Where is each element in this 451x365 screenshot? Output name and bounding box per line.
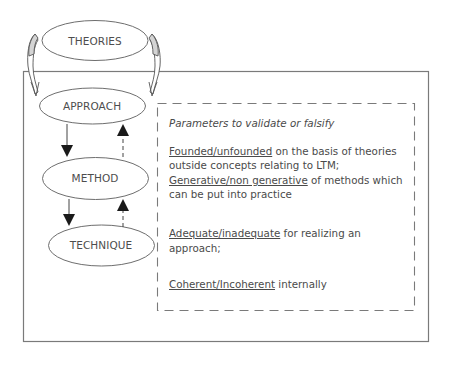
arrow-method-to-approach-dashed <box>117 124 129 157</box>
param-adequate-term: Adequate/inadequate <box>169 227 280 239</box>
curved-arrow-right-icon <box>149 34 160 96</box>
method-label: METHOD <box>72 172 119 184</box>
param-founded: Founded/unfounded on the basis of theori… <box>169 144 409 173</box>
ltm-validation-diagram: THEORIES APPROACH METHOD TECHNIQUE Param… <box>0 0 451 365</box>
arrow-technique-to-method-dashed <box>117 199 129 227</box>
arrow-approach-to-method <box>61 124 73 157</box>
approach-label: APPROACH <box>63 100 121 112</box>
param-coherent-desc: internally <box>275 278 327 290</box>
parameters-panel: Parameters to validate or falsify Founde… <box>169 116 409 292</box>
param-coherent-term: Coherent/Incoherent <box>169 278 275 290</box>
param-generative-term: Generative/non generative <box>169 174 308 186</box>
technique-label: TECHNIQUE <box>70 239 133 251</box>
param-adequate: Adequate/inadequate for realizing an app… <box>169 226 409 255</box>
panel-title: Parameters to validate or falsify <box>169 116 409 131</box>
curved-arrow-left-icon <box>28 34 39 96</box>
theories-label: THEORIES <box>68 35 122 47</box>
param-coherent: Coherent/Incoherent internally <box>169 277 409 292</box>
arrow-method-to-technique <box>63 199 75 226</box>
param-generative: Generative/non generative of methods whi… <box>169 173 409 202</box>
param-founded-term: Founded/unfounded <box>169 145 272 157</box>
